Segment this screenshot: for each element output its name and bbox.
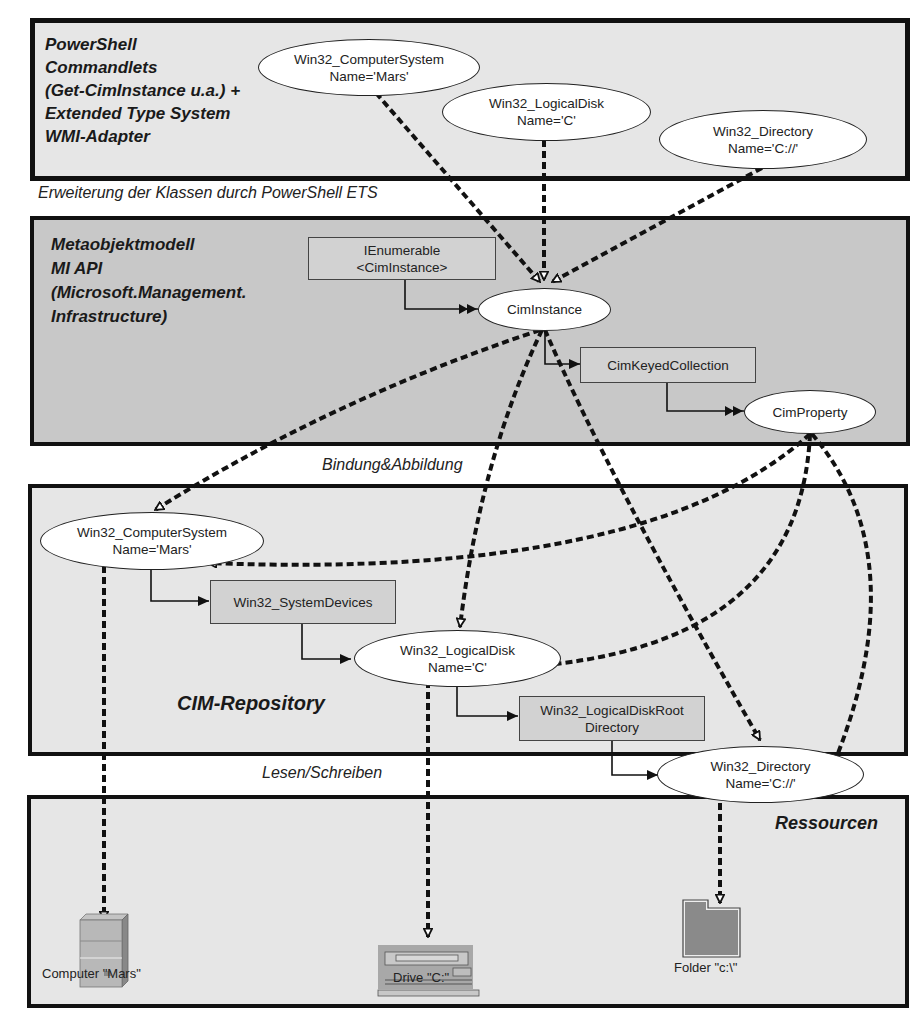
- node-ps-directory[interactable]: Win32_Directory Name='C://': [659, 110, 867, 169]
- node-repo-computersystem-line2: Name='Mars': [112, 541, 191, 558]
- dashed-ciminstance-to-repo-logicaldisk: [460, 330, 542, 627]
- node-ciminstance[interactable]: CimInstance: [478, 288, 611, 331]
- resource-folder-label: Folder "c:\": [674, 960, 737, 975]
- solid-repo-computersystem-to-systemdevices: [151, 570, 209, 601]
- node-ps-logicaldisk-line1: Win32_LogicalDisk: [489, 95, 604, 112]
- node-ps-computersystem-line1: Win32_ComputerSystem: [294, 51, 444, 68]
- node-logicaldiskroot[interactable]: Win32_LogicalDiskRoot Directory: [519, 696, 705, 741]
- node-cimproperty-line1: CimProperty: [772, 404, 847, 421]
- node-repo-directory[interactable]: Win32_Directory Name='C://': [657, 746, 864, 803]
- resource-drive-label: Drive "C:": [393, 970, 449, 985]
- node-ps-directory-line1: Win32_Directory: [713, 123, 813, 140]
- node-ciminstance-line1: CimInstance: [507, 301, 582, 318]
- node-ps-logicaldisk-line2: Name='C': [517, 112, 576, 129]
- solid-systemdevices-to-repo-logicaldisk: [302, 623, 351, 659]
- node-repo-directory-line1: Win32_Directory: [711, 758, 811, 775]
- node-cimkeyedcollection[interactable]: CimKeyedCollection: [580, 347, 756, 383]
- solid-ciminstance-to-keyedcollection: [545, 331, 580, 364]
- dashed-cimproperty-to-repo-computersystem: [208, 434, 810, 565]
- resource-computer-label: Computer "Mars": [42, 966, 141, 981]
- node-ps-computersystem[interactable]: Win32_ComputerSystem Name='Mars': [258, 39, 480, 96]
- node-ps-logicaldisk[interactable]: Win32_LogicalDisk Name='C': [442, 83, 651, 141]
- node-ienumerable-line1: IEnumerable: [364, 242, 441, 259]
- node-ienumerable-line2: <CimInstance>: [357, 259, 448, 276]
- node-cimproperty[interactable]: CimProperty: [744, 390, 876, 434]
- node-cimkeyedcollection-line1: CimKeyedCollection: [607, 357, 729, 374]
- dashed-ps-directory-to-ciminstance: [552, 168, 762, 282]
- node-repo-directory-line2: Name='C://': [725, 775, 795, 792]
- solid-ienumerable-to-ciminstance: [405, 279, 478, 309]
- node-ienumerable[interactable]: IEnumerable <CimInstance>: [308, 237, 496, 280]
- dashed-ciminstance-to-repo-computersystem: [155, 330, 540, 510]
- node-ps-computersystem-line2: Name='Mars': [329, 68, 408, 85]
- node-logicaldiskroot-line2: Directory: [585, 719, 639, 736]
- solid-repo-logicaldisk-to-logicaldiskroot: [457, 683, 518, 716]
- node-repo-logicaldisk-line2: Name='C': [428, 659, 487, 676]
- dashed-cimproperty-to-repo-directory: [812, 434, 871, 773]
- solid-keyedcollection-to-cimproperty: [667, 382, 744, 411]
- dashed-ciminstance-to-repo-directory: [545, 330, 760, 740]
- node-systemdevices[interactable]: Win32_SystemDevices: [210, 580, 396, 624]
- node-ps-directory-line2: Name='C://': [728, 140, 798, 157]
- node-repo-computersystem-line1: Win32_ComputerSystem: [77, 524, 227, 541]
- node-repo-logicaldisk-line1: Win32_LogicalDisk: [400, 642, 515, 659]
- node-logicaldiskroot-line1: Win32_LogicalDiskRoot: [540, 702, 683, 719]
- node-systemdevices-line1: Win32_SystemDevices: [234, 594, 373, 611]
- node-repo-logicaldisk[interactable]: Win32_LogicalDisk Name='C': [354, 630, 561, 687]
- solid-logicaldiskroot-to-repo-directory: [612, 740, 658, 775]
- node-repo-computersystem[interactable]: Win32_ComputerSystem Name='Mars': [40, 512, 264, 570]
